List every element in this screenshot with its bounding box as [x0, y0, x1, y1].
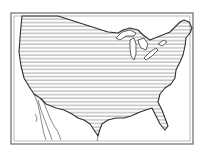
us-map-illustration — [0, 0, 205, 154]
us-land — [15, 15, 195, 140]
map-svg — [0, 0, 205, 154]
